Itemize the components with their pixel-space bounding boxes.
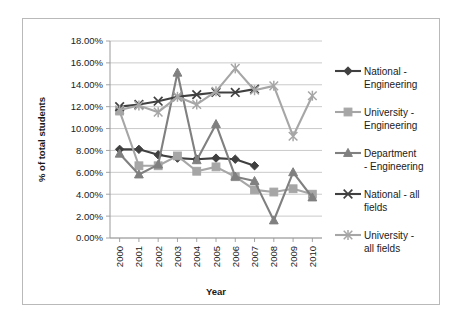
chart-plot-area: 0.00%2.00%4.00%6.00%8.00%10.00%12.00%14.…: [23, 19, 441, 306]
legend-label: National - all: [364, 189, 420, 200]
square-marker: [193, 167, 201, 175]
data-point: [289, 185, 297, 193]
y-axis-tick-label: 2.00%: [76, 211, 103, 222]
y-axis-tick-label: 16.00%: [71, 57, 104, 68]
data-point: [231, 63, 240, 73]
y-axis-tick-label: 12.00%: [71, 101, 104, 112]
legend-item[interactable]: [335, 108, 361, 116]
x-axis-tick-label: 2001: [133, 246, 144, 267]
square-marker: [212, 163, 220, 171]
square-marker: [270, 188, 278, 196]
legend-label-line2: fields: [364, 202, 387, 213]
y-axis-tick-label: 6.00%: [76, 167, 103, 178]
data-point: [231, 155, 239, 163]
x-axis-tick-label: 2008: [268, 246, 279, 267]
legend-item[interactable]: [335, 190, 361, 199]
legend-marker: [344, 108, 352, 116]
data-point: [135, 145, 143, 153]
legend-label-line2: - Engineering: [364, 161, 423, 172]
legend-item[interactable]: [335, 148, 361, 156]
data-point: [289, 168, 298, 176]
data-point: [212, 86, 221, 96]
square-marker: [289, 185, 297, 193]
data-point: [174, 152, 182, 160]
data-point: [212, 163, 220, 171]
data-point: [269, 216, 278, 224]
diamond-marker: [231, 155, 239, 163]
legend-label: Department: [364, 148, 416, 159]
y-axis-tick-label: 8.00%: [76, 145, 103, 156]
diamond-marker: [250, 162, 258, 170]
data-point: [212, 154, 220, 162]
data-point: [173, 68, 182, 76]
data-point: [135, 162, 143, 170]
x-axis-tick-label: 2002: [153, 246, 164, 267]
diamond-marker: [212, 154, 220, 162]
y-axis-title: % of total students: [36, 97, 47, 182]
x-axis-tick-label: 2010: [307, 246, 318, 267]
y-axis-tick-label: 10.00%: [71, 123, 104, 134]
x-axis-tick-label: 2000: [114, 246, 125, 267]
data-point: [212, 120, 221, 128]
y-axis-tick-label: 4.00%: [76, 189, 103, 200]
data-point: [193, 167, 201, 175]
x-axis-tick-label: 2009: [288, 246, 299, 267]
x-axis-tick-label: 2003: [172, 246, 183, 267]
diamond-marker: [135, 145, 143, 153]
x-axis-tick-label: 2007: [249, 246, 260, 267]
data-point: [250, 162, 258, 170]
triangle-marker: [173, 68, 182, 76]
triangle-marker: [212, 120, 221, 128]
legend-item[interactable]: [335, 67, 361, 75]
square-marker: [135, 162, 143, 170]
legend-item[interactable]: [335, 230, 361, 240]
legend-marker: [344, 67, 352, 75]
data-point: [308, 91, 317, 101]
data-point: [289, 131, 298, 141]
x-axis-tick-label: 2005: [211, 246, 222, 267]
y-axis-tick-label: 18.00%: [71, 35, 104, 46]
legend-label-line2: all fields: [364, 243, 400, 254]
x-axis-title: Year: [206, 286, 226, 297]
chart-container: 0.00%2.00%4.00%6.00%8.00%10.00%12.00%14.…: [22, 18, 440, 305]
triangle-marker: [269, 216, 278, 224]
x-axis-tick-label: 2004: [191, 246, 202, 267]
y-axis-tick-label: 14.00%: [71, 79, 104, 90]
legend-label-line2: Engineering: [364, 79, 417, 90]
diamond-marker: [344, 67, 352, 75]
square-marker: [174, 152, 182, 160]
triangle-marker: [289, 168, 298, 176]
x-axis-tick-label: 2006: [230, 246, 241, 267]
square-marker: [344, 108, 352, 116]
data-point: [270, 188, 278, 196]
data-point: [192, 99, 201, 109]
y-axis-tick-label: 0.00%: [76, 232, 103, 243]
line-chart: 0.00%2.00%4.00%6.00%8.00%10.00%12.00%14.…: [23, 19, 441, 306]
legend-label: University -: [364, 230, 414, 241]
legend-label: National -: [364, 66, 407, 77]
legend-label-line2: Engineering: [364, 120, 417, 131]
legend-label: University -: [364, 107, 414, 118]
